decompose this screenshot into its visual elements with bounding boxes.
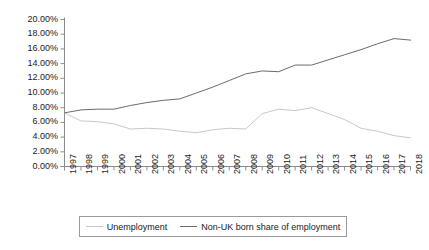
x-axis-tick-label: 2000 [118, 153, 127, 173]
y-axis-tick-label: 16.00% [8, 44, 58, 53]
x-axis-tick-label: 2005 [200, 153, 209, 173]
x-axis-tick-label: 2018 [415, 153, 424, 173]
y-axis-tick-label: 14.00% [8, 59, 58, 68]
legend-entry-2[interactable]: Non-UK born share of employment [180, 222, 340, 232]
y-axis-tick-label: 4.00% [8, 132, 58, 141]
y-axis-tick-label: 2.00% [8, 147, 58, 156]
x-axis-tick-label: 1997 [69, 153, 78, 173]
line-chart: 20.00%18.00%16.00%14.00%12.00%10.00%8.00… [0, 0, 429, 250]
legend-line-swatch [180, 226, 197, 227]
x-axis-tick-label: 2016 [382, 153, 391, 173]
x-axis-tick-label: 2012 [316, 153, 325, 173]
x-axis-tick-label: 2006 [217, 153, 226, 173]
y-axis-ticks [61, 20, 65, 167]
plot-area [0, 0, 429, 250]
y-axis-tick-label: 8.00% [8, 103, 58, 112]
x-axis-tick-label: 2017 [398, 153, 407, 173]
legend-label: Non-UK born share of employment [201, 222, 340, 232]
legend-entry-1[interactable]: Unemployment [86, 222, 168, 232]
legend-line-swatch [86, 226, 103, 227]
x-axis-tick-label: 2004 [184, 153, 193, 173]
y-axis-tick-label: 10.00% [8, 88, 58, 97]
axis-lines [61, 18, 411, 167]
y-axis-tick-label: 18.00% [8, 29, 58, 38]
x-axis-tick-label: 2003 [167, 153, 176, 173]
x-axis-tick-label: 2002 [151, 153, 160, 173]
x-axis-tick-label: 1999 [101, 153, 110, 173]
y-axis-tick-label: 0.00% [8, 162, 58, 171]
x-axis-tick-label: 2014 [349, 153, 358, 173]
x-axis-tick-label: 2008 [250, 153, 259, 173]
legend-label: Unemployment [107, 222, 168, 232]
x-axis-tick-label: 2007 [233, 153, 242, 173]
x-axis-tick-label: 2013 [332, 153, 341, 173]
series-lines [65, 39, 411, 138]
x-axis-tick-label: 2010 [283, 153, 292, 173]
x-axis-tick-label: 2011 [299, 154, 308, 173]
x-axis-tick-label: 2009 [266, 153, 275, 173]
series-line-2 [65, 39, 411, 113]
y-axis-tick-label: 20.00% [8, 15, 58, 24]
x-axis-tick-label: 2001 [134, 153, 143, 173]
x-axis-tick-label: 1998 [85, 153, 94, 173]
y-axis-tick-label: 12.00% [8, 73, 58, 82]
series-line-1 [65, 108, 411, 138]
chart-legend: UnemploymentNon-UK born share of employm… [79, 216, 347, 237]
x-axis-tick-label: 2015 [365, 153, 374, 173]
y-axis-tick-label: 6.00% [8, 117, 58, 126]
